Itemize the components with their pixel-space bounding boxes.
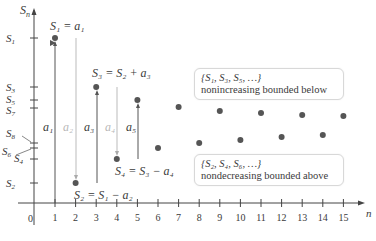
- partial-sum-point: [217, 108, 223, 114]
- partial-sum-point: [93, 84, 99, 90]
- even-set-label: {S₂, S₄, S₆, …}: [201, 158, 337, 170]
- x-tick-label: 11: [256, 212, 266, 223]
- a5-label: a₅: [126, 120, 136, 134]
- y-axis-arrow-icon: [32, 8, 37, 15]
- partial-sum-point: [196, 140, 202, 146]
- x-axis-arrow-icon: [358, 201, 365, 206]
- partial-sum-point: [258, 110, 264, 116]
- x-tick-label: 9: [217, 212, 222, 223]
- a1-label: a₁: [43, 120, 53, 134]
- partial-sum-point: [279, 134, 285, 140]
- partial-sum-point: [73, 180, 79, 186]
- s4-annotation: S₄ = S₃ − a₄: [115, 164, 174, 178]
- partial-sum-point: [155, 145, 161, 151]
- even-description: nondecreasing bounded above: [201, 170, 337, 182]
- x-tick-label: 6: [156, 212, 161, 223]
- partial-sum-point: [237, 137, 243, 143]
- x-tick-label: 4: [114, 212, 119, 223]
- a4-label: a₄: [105, 120, 115, 134]
- partial-sum-point: [340, 113, 346, 119]
- x-tick-label: 15: [338, 212, 348, 223]
- partial-sum-point: [52, 35, 58, 41]
- even-partial-sums-box: {S₂, S₄, S₆, …} nondecreasing bounded ab…: [194, 154, 344, 186]
- partial-sum-point: [114, 156, 120, 162]
- alternating-series-diagram: 123456789101112131415 Sn n 0 S1S3S5S7S8S…: [0, 0, 376, 241]
- a2-label: a₂: [63, 120, 73, 134]
- odd-partial-sums-box: {S₁, S₃, S₅, …} nonincreasing bounded be…: [194, 68, 344, 100]
- x-tick-label: 13: [297, 212, 307, 223]
- s2-annotation: S₂ = S₁ − a₂: [74, 188, 133, 202]
- x-tick-label: 2: [73, 212, 78, 223]
- a3-label: a₃: [84, 120, 94, 134]
- x-tick-label: 14: [318, 212, 328, 223]
- y-tick-label: S4: [14, 152, 24, 166]
- odd-set-label: {S₁, S₃, S₅, …}: [201, 72, 337, 84]
- x-tick-label: 8: [197, 212, 202, 223]
- s3-annotation: S₃ = S₂ + a₃: [92, 66, 151, 80]
- partial-sum-point: [299, 112, 305, 118]
- y-tick-label: S2: [6, 177, 16, 191]
- x-tick-label: 12: [277, 212, 287, 223]
- partial-sum-point: [134, 97, 140, 103]
- x-tick-label: 5: [135, 212, 140, 223]
- partial-sum-point: [320, 132, 326, 138]
- x-tick-label: 3: [94, 212, 99, 223]
- y-axis-label: Sn: [20, 3, 30, 19]
- origin-label: 0: [28, 213, 33, 224]
- x-tick-label: 10: [235, 212, 245, 223]
- x-tick-label: 7: [176, 212, 181, 223]
- odd-description: nonincreasing bounded below: [201, 84, 337, 96]
- x-axis-label: n: [366, 207, 372, 219]
- s1-annotation: S₁ = a₁: [50, 19, 84, 33]
- y-tick-label: S8: [6, 127, 16, 141]
- partial-sum-point: [176, 104, 182, 110]
- y-tick-label: S1: [6, 32, 15, 46]
- x-tick-label: 1: [53, 212, 58, 223]
- y-tick-label: S6: [2, 145, 12, 159]
